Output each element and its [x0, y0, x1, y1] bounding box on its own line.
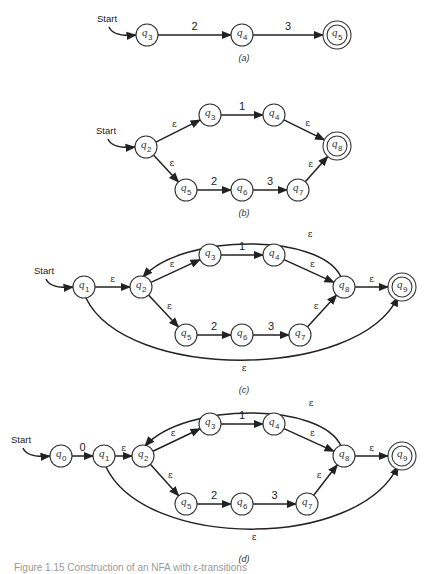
svg-text:8: 8 — [345, 285, 350, 294]
svg-text:4: 4 — [275, 113, 280, 122]
state-q3: q3 — [136, 24, 158, 46]
start-arrow — [108, 139, 135, 147]
state-q4: q4 — [263, 244, 285, 266]
diagram-label: (b) — [239, 208, 250, 218]
svg-text:6: 6 — [243, 188, 248, 197]
transition-label: ε — [170, 259, 175, 269]
svg-text:4: 4 — [275, 422, 280, 431]
svg-text:8: 8 — [345, 454, 350, 463]
diagram-label: (a) — [239, 53, 250, 63]
transition-label: 0 — [79, 441, 85, 453]
svg-text:6: 6 — [243, 502, 248, 511]
transition-label: ε — [369, 274, 374, 284]
state-q6: q6 — [231, 179, 253, 201]
transition-q2-q3 — [151, 260, 200, 283]
state-q3: q3 — [199, 104, 221, 126]
transition-label: 2 — [211, 175, 217, 187]
svg-text:6: 6 — [243, 333, 248, 342]
state-q8: q8 — [323, 132, 351, 160]
svg-text:1: 1 — [105, 454, 110, 463]
start-arrow — [46, 279, 73, 287]
svg-text:1: 1 — [85, 285, 90, 294]
transition-label: ε — [308, 159, 313, 169]
svg-text:3: 3 — [211, 253, 216, 262]
state-q5: q5 — [323, 21, 351, 49]
svg-text:7: 7 — [301, 333, 306, 342]
transition-label: ε — [110, 274, 115, 284]
transition-label: ε — [167, 301, 172, 311]
transition-q1-q9 — [106, 466, 398, 529]
svg-text:3: 3 — [211, 113, 216, 122]
svg-text:2: 2 — [147, 145, 152, 154]
transition-label: 3 — [271, 489, 277, 501]
state-q4: q4 — [263, 104, 285, 126]
start-label: Start — [96, 125, 116, 136]
svg-text:9: 9 — [403, 285, 408, 294]
svg-text:0: 0 — [62, 454, 67, 463]
state-q3: q3 — [199, 413, 221, 435]
state-q6: q6 — [231, 324, 253, 346]
state-q1: q1 — [93, 445, 115, 467]
svg-text:3: 3 — [148, 33, 153, 42]
transition-q4-q8 — [284, 120, 325, 140]
svg-text:2: 2 — [144, 454, 149, 463]
svg-text:5: 5 — [338, 33, 343, 42]
state-q9: q9 — [388, 273, 416, 301]
state-q2: q2 — [135, 136, 157, 158]
transition-q2-q5 — [153, 155, 178, 182]
transition-label: ε — [369, 443, 374, 453]
state-q7: q7 — [289, 324, 311, 346]
transition-label: ε — [171, 428, 176, 438]
transition-label: 3 — [285, 20, 291, 32]
transition-label: ε — [305, 118, 310, 128]
diagram-a: 23Startq3q4q5(a) — [97, 13, 351, 63]
state-q7: q7 — [296, 493, 318, 515]
state-q0: q0 — [50, 445, 72, 467]
transition-q2-q5 — [150, 464, 178, 496]
state-q3: q3 — [199, 244, 221, 266]
svg-text:2: 2 — [142, 285, 147, 294]
transition-label: 2 — [211, 489, 217, 501]
transition-label: ε — [242, 363, 247, 373]
transition-label: ε — [252, 532, 257, 542]
transition-label: ε — [172, 119, 177, 129]
transition-label: ε — [308, 229, 313, 239]
start-label: Start — [11, 434, 31, 445]
state-q5: q5 — [175, 493, 197, 515]
state-q5: q5 — [175, 179, 197, 201]
transition-label: ε — [314, 301, 319, 311]
svg-text:7: 7 — [299, 188, 304, 197]
transition-q2-q3 — [156, 120, 200, 142]
svg-text:5: 5 — [187, 188, 192, 197]
svg-text:4: 4 — [243, 33, 248, 42]
diagram-b: ε1εε23εStartq2q3q4q8q5q6q7(b) — [96, 100, 351, 218]
svg-text:5: 5 — [187, 333, 192, 342]
state-q4: q4 — [231, 24, 253, 46]
diagram-c: εε1εε23εεεεStartq1q2q3q4q8q9q5q6q7(c) — [34, 229, 416, 395]
transition-label: 1 — [239, 100, 245, 112]
start-label: Start — [97, 13, 117, 24]
transition-label: 1 — [239, 240, 245, 252]
state-q9: q9 — [388, 442, 416, 470]
figure-caption: Figure 1.15 Construction of an NFA with … — [14, 562, 247, 573]
transition-label: 2 — [211, 320, 217, 332]
transition-label: ε — [121, 443, 126, 453]
transition-q7-q8 — [307, 295, 336, 327]
transition-q2-q3 — [153, 429, 200, 452]
svg-text:7: 7 — [308, 502, 313, 511]
transition-label: 3 — [267, 175, 273, 187]
state-q8: q8 — [333, 276, 355, 298]
transition-q2-q5 — [149, 295, 179, 327]
svg-text:5: 5 — [187, 502, 192, 511]
svg-text:4: 4 — [275, 253, 280, 262]
transition-label: ε — [168, 470, 173, 480]
diagram-label: (c) — [239, 385, 250, 395]
start-arrow — [109, 27, 136, 35]
diagram-d: 0εε1εε23εεεεStartq0q1q2q3q4q8q9q5q6q7(d) — [11, 398, 416, 564]
transition-label: 3 — [268, 320, 274, 332]
start-arrow — [23, 448, 50, 456]
svg-text:3: 3 — [211, 422, 216, 431]
state-q2: q2 — [130, 276, 152, 298]
state-q5: q5 — [175, 324, 197, 346]
state-q7: q7 — [287, 179, 309, 201]
